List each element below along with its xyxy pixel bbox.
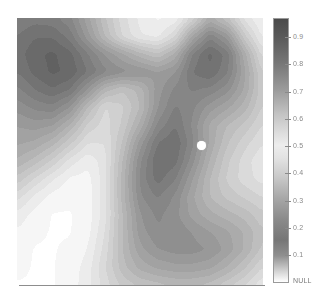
colorbar-tick-7 bbox=[285, 228, 291, 229]
colorbar-label-3: 0.6 bbox=[293, 115, 303, 123]
colorbar-label-1: 0.8 bbox=[293, 60, 303, 68]
colorbar-label-0: 0.9 bbox=[293, 33, 303, 41]
x-axis-line bbox=[19, 285, 265, 286]
colorbar-label-null: NULL bbox=[293, 277, 312, 285]
colorbar-tick-3 bbox=[285, 119, 291, 120]
colorbar-label-2: 0.7 bbox=[293, 88, 303, 96]
colorbar-label-6: 0.3 bbox=[293, 197, 303, 205]
colorbar-gradient[interactable] bbox=[273, 18, 289, 283]
colorbar-tick-6 bbox=[285, 201, 291, 202]
heatmap-surface[interactable] bbox=[17, 18, 263, 286]
colorbar-tick-0 bbox=[285, 37, 291, 38]
colorbar-label-5: 0.4 bbox=[293, 169, 303, 177]
colorbar-tick-1 bbox=[285, 64, 291, 65]
colorbar-tick-8 bbox=[285, 255, 291, 256]
colorbar-tick-2 bbox=[285, 92, 291, 93]
colorbar[interactable]: 0.90.80.70.60.50.40.30.20.1NULL bbox=[273, 18, 323, 286]
colorbar-tick-5 bbox=[285, 173, 291, 174]
colorbar-label-8: 0.1 bbox=[293, 251, 303, 259]
colorbar-tick-4 bbox=[285, 146, 291, 147]
figure-container: 0.90.80.70.60.50.40.30.20.1NULL bbox=[0, 0, 323, 299]
colorbar-label-4: 0.5 bbox=[293, 142, 303, 150]
colorbar-label-7: 0.2 bbox=[293, 224, 303, 232]
heatmap-plot-area[interactable] bbox=[17, 18, 263, 286]
